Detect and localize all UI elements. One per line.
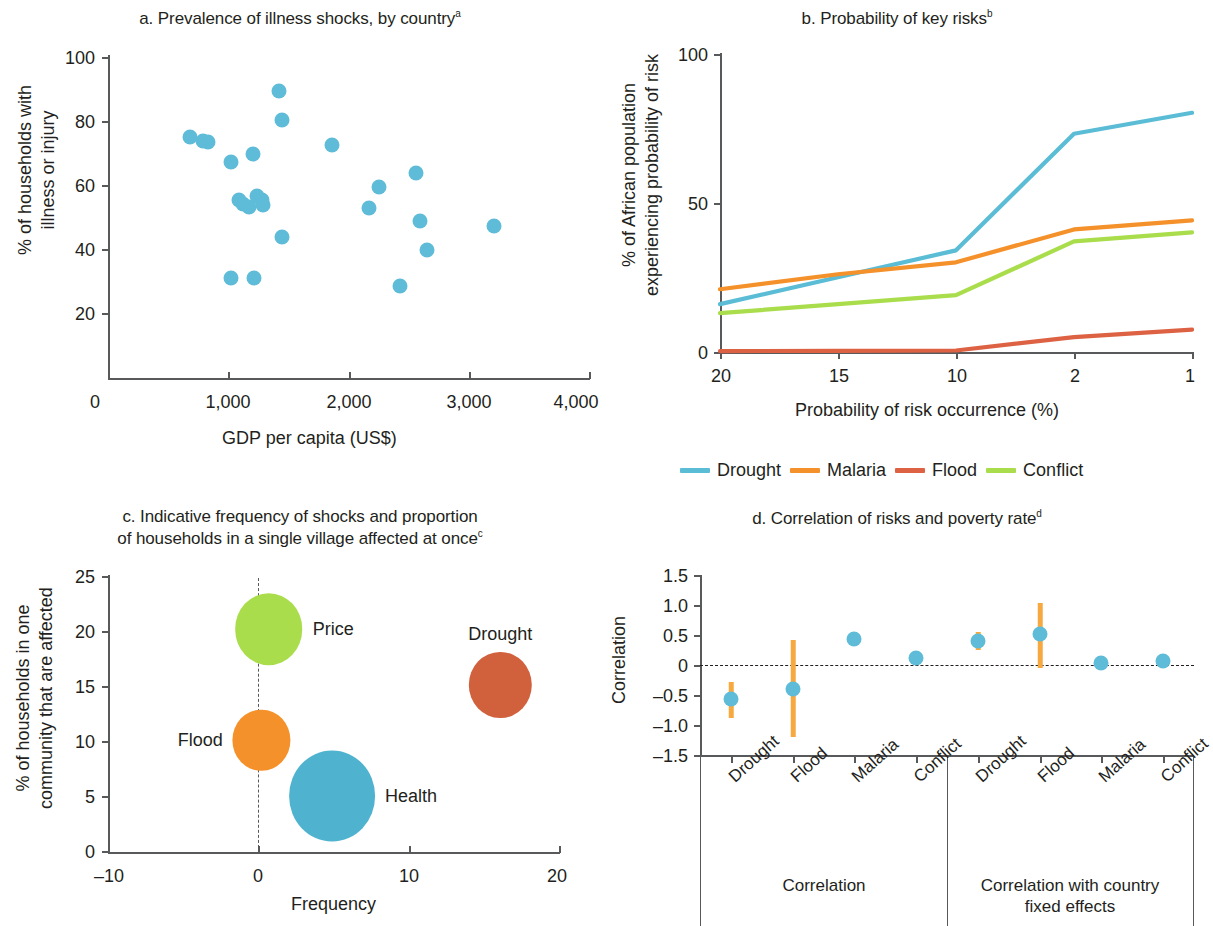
panel-b-legend: DroughtMalariaFloodConflict (680, 460, 1083, 481)
panel-a-scatter-point (223, 270, 238, 285)
panel-a-scatter-point (274, 112, 289, 127)
panel-a-scatter-point (256, 198, 271, 213)
panel-b-legend-swatch-malaria (790, 468, 820, 473)
panel-d-group-label-fixed-effects-line1: Correlation with country (981, 876, 1160, 895)
panel-a-scatter-point (246, 270, 261, 285)
panel-a-scatter-point (413, 214, 428, 229)
panel-d-category-tick (1101, 756, 1103, 763)
panel-a-scatter-point (420, 243, 435, 258)
panel-d-category-label-conflict-1: Conflict (910, 734, 966, 787)
panel-b-legend-label-drought: Drought (717, 460, 781, 481)
panel-d-category-tick (1163, 756, 1165, 763)
panel-b-legend-swatch-drought (680, 468, 710, 473)
panel-a-scatter-point (245, 146, 260, 161)
panel-c-frequency-shocks-proportion: c. Indicative frequency of shocks and pr… (0, 490, 600, 926)
panel-a-scatter-point (325, 138, 340, 153)
panel-d-category-tick (854, 756, 856, 763)
panel-c-bubble-flood (233, 710, 290, 771)
panel-d-category-tick (731, 756, 733, 763)
panel-b-line-drought (720, 113, 1192, 304)
panel-b-legend-swatch-flood (895, 468, 925, 473)
panel-b-line-flood (720, 330, 1192, 352)
panel-b-legend-item-flood[interactable]: Flood (895, 460, 977, 481)
panel-c-bubble-layer: PriceFloodHealthDrought (0, 490, 600, 926)
panel-c-bubble-label-price: Price (313, 618, 354, 639)
panel-b-legend-item-conflict[interactable]: Conflict (986, 460, 1083, 481)
panel-d-category-tick (978, 756, 980, 763)
panel-b-legend-item-drought[interactable]: Drought (680, 460, 781, 481)
panel-a-scatter-point (223, 154, 238, 169)
panel-a-scatter-point (201, 135, 216, 150)
panel-d-category-label-malaria-2: Malaria (1095, 735, 1150, 787)
panel-a-scatter-point (409, 165, 424, 180)
panel-d-category-label-malaria-1: Malaria (848, 735, 903, 787)
panel-b-probability-key-risks: b. Probability of key risksb 100 50 0 20… (600, 0, 1194, 495)
panel-b-legend-label-malaria: Malaria (827, 460, 886, 481)
panel-b-lines-svg (600, 0, 1194, 495)
panel-a-scatter-point (392, 278, 407, 293)
panel-b-legend-swatch-conflict (986, 468, 1016, 473)
panel-b-legend-label-flood: Flood (932, 460, 977, 481)
panel-d-group-label-correlation: Correlation (724, 875, 924, 896)
panel-b-line-conflict (720, 232, 1192, 313)
panel-d-category-label-drought-1: Drought (725, 732, 783, 787)
panel-b-legend-item-malaria[interactable]: Malaria (790, 460, 886, 481)
panel-d-correlation-risks-poverty: d. Correlation of risks and poverty rate… (600, 490, 1194, 926)
panel-a-scatter-point (372, 180, 387, 195)
panel-d-category-tick (793, 756, 795, 763)
panel-a-scatter-point (486, 219, 501, 234)
panel-a-prevalence-illness-shocks: a. Prevalence of illness shocks, by coun… (0, 0, 600, 465)
panel-c-bubble-drought (469, 652, 531, 718)
panel-d-category-tick (916, 756, 918, 763)
panel-a-scatter-point (362, 201, 377, 216)
panel-c-bubble-label-drought: Drought (468, 624, 532, 645)
panel-c-bubble-label-flood: Flood (178, 730, 223, 751)
panel-d-category-label-drought-2: Drought (972, 732, 1030, 787)
panel-d-category-labels-layer: DroughtFloodMalariaConflictDroughtFloodM… (600, 490, 1194, 926)
panel-c-bubble-health (289, 750, 375, 841)
panel-d-group-label-fixed-effects-line2: fixed effects (1025, 897, 1115, 916)
panel-b-line-malaria (720, 220, 1192, 289)
panel-d-category-label-conflict-2: Conflict (1157, 734, 1213, 787)
panel-d-category-tick (1040, 756, 1042, 763)
panel-a-scatter-point (274, 230, 289, 245)
panel-b-legend-label-conflict: Conflict (1023, 460, 1083, 481)
panel-d-category-label-flood-1: Flood (787, 744, 832, 787)
panel-d-category-label-flood-2: Flood (1034, 744, 1079, 787)
panel-c-bubble-price (235, 593, 303, 665)
panel-a-scatter-layer (0, 0, 600, 465)
panel-c-bubble-label-health: Health (385, 785, 437, 806)
panel-a-scatter-point (272, 83, 287, 98)
